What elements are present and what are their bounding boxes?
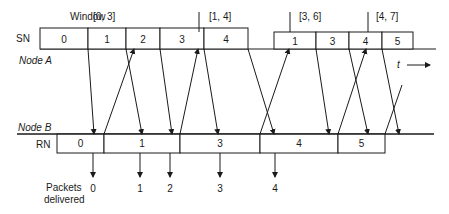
diagram-content: 012341345[0, 3][1, 4][3, 6][4, 7]0134501… xyxy=(17,11,436,194)
sn-label: SN xyxy=(16,33,30,44)
rn-label: RN xyxy=(36,139,50,150)
packet-arrow xyxy=(88,49,94,134)
packets-label: Packets xyxy=(46,182,82,193)
delivered-packet-number: 4 xyxy=(272,183,278,194)
delivered-packet-number: 1 xyxy=(137,183,143,194)
window-range: [0, 3] xyxy=(93,11,115,22)
rn-value: 5 xyxy=(359,138,365,149)
packet-arrow xyxy=(160,49,172,134)
delivered-packet-number: 3 xyxy=(217,183,223,194)
node-a-label: Node A xyxy=(19,55,52,66)
window-range: [3, 6] xyxy=(299,11,321,22)
sn-value: 1 xyxy=(292,36,298,47)
sn-value: 3 xyxy=(179,34,185,45)
delivered-packet-number: 2 xyxy=(167,183,173,194)
packet-arrow xyxy=(316,49,329,134)
window-range: [4, 7] xyxy=(376,11,398,22)
sn-value: 3 xyxy=(330,36,336,47)
sn-value: 0 xyxy=(61,34,67,45)
time-label: t xyxy=(397,59,401,70)
sn-value: 4 xyxy=(223,34,229,45)
ack-arrow xyxy=(260,49,289,134)
sliding-window-diagram: Window SN Node A Node B RN Packets deliv… xyxy=(0,0,449,214)
rn-value: 1 xyxy=(139,138,145,149)
node-b-label: Node B xyxy=(18,122,52,133)
rn-value: 4 xyxy=(296,138,302,149)
window-range: [1, 4] xyxy=(209,11,231,22)
packet-arrow xyxy=(248,49,274,134)
delivered-packet-number: 0 xyxy=(90,183,96,194)
sn-value: 1 xyxy=(104,34,110,45)
ack-arrow xyxy=(385,85,402,134)
packet-arrow xyxy=(204,49,218,134)
sn-value: 2 xyxy=(140,34,146,45)
sn-value: 5 xyxy=(395,36,401,47)
rn-value: 0 xyxy=(78,138,84,149)
sn-value: 4 xyxy=(363,36,369,47)
rn-value: 3 xyxy=(217,138,223,149)
ack-arrow xyxy=(104,49,134,134)
packet-arrow xyxy=(126,49,142,134)
ack-arrow xyxy=(180,49,198,134)
delivered-label: delivered xyxy=(44,194,85,205)
